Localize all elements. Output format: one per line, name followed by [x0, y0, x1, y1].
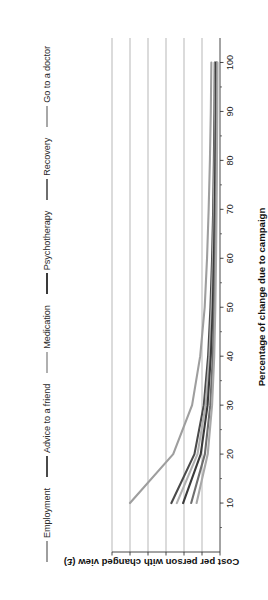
x-tick-label: 80: [225, 155, 235, 165]
legend-item[interactable]: Psychotherapy: [42, 211, 52, 294]
plot-svg: 0102030405060102030405060708090100: [108, 36, 236, 558]
legend-swatch-line-icon: [46, 352, 49, 373]
legend-label: Go to a doctor: [42, 46, 52, 103]
x-tick-label: 50: [225, 302, 235, 312]
legend-label: Medication: [42, 305, 52, 348]
chart-legend: EmploymentAdvice to a friendMedicationPs…: [42, 32, 104, 562]
line-chart-figure: EmploymentAdvice to a friendMedicationPs…: [42, 0, 236, 600]
legend-item[interactable]: Medication: [42, 305, 52, 372]
legend-item[interactable]: Employment: [42, 488, 52, 562]
series-lines-group: [130, 62, 217, 503]
x-tick-label: 90: [225, 106, 235, 116]
legend-swatch-line-icon: [46, 541, 49, 562]
x-tick-label: 40: [225, 351, 235, 361]
legend-swatch-line-icon: [46, 179, 49, 200]
x-tick-label: 30: [225, 400, 235, 410]
legend-label: Recovery: [42, 138, 52, 176]
x-tick-label: 60: [225, 253, 235, 263]
legend-swatch-line-icon: [46, 456, 49, 477]
plot-region: 0102030405060102030405060708090100: [108, 36, 236, 558]
legend-swatch-line-icon: [46, 273, 49, 294]
x-tick-label: 20: [225, 449, 235, 459]
legend-item[interactable]: Recovery: [42, 138, 52, 200]
rotated-figure-wrapper: EmploymentAdvice to a friendMedicationPs…: [42, 0, 236, 600]
x-tick-label: 10: [225, 498, 235, 508]
legend-label: Psychotherapy: [42, 211, 52, 270]
x-tick-label: 70: [225, 204, 235, 214]
legend-label: Advice to a friend: [42, 384, 52, 453]
y-axis-title: Cost per person with changed view (£): [52, 557, 237, 568]
legend-label: Employment: [42, 488, 52, 538]
legend-item[interactable]: Advice to a friend: [42, 384, 52, 477]
x-tick-label: 100: [225, 55, 235, 70]
legend-item[interactable]: Go to a doctor: [42, 46, 52, 127]
series-line[interactable]: [130, 62, 211, 503]
legend-swatch-line-icon: [46, 106, 49, 127]
